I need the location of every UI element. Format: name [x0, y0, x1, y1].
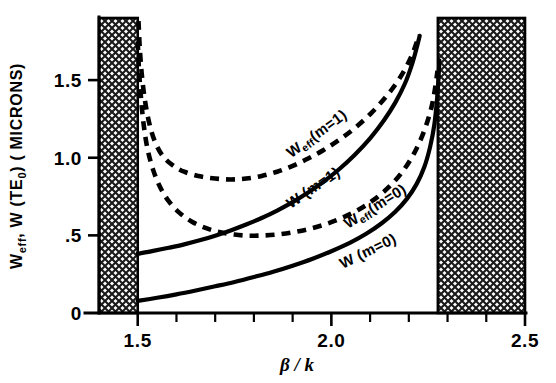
y-axis-title-zero: 0 [16, 172, 28, 179]
y-axis-title-w: W [8, 253, 25, 269]
y-tick-label: .5 [65, 225, 82, 246]
x-tick-label: 2.5 [511, 330, 539, 351]
y-tick-label: 0 [71, 303, 82, 324]
chart-canvas: 0.51.01.5 1.52.02.5 β / k Weff, W (TE0) … [0, 0, 556, 383]
y-axis-title-eff: eff [16, 238, 28, 254]
y-axis-title-mid: , W (TE [8, 179, 25, 238]
x-tick-label: 1.5 [124, 330, 152, 351]
x-tick-label: 2.0 [317, 330, 345, 351]
right-forbidden-band [438, 18, 525, 313]
y-axis-title-units: ) ( MICRONS) [8, 63, 25, 172]
figure-container: 0.51.01.5 1.52.02.5 β / k Weff, W (TE0) … [0, 0, 556, 383]
x-axis-title: β / k [279, 354, 315, 375]
y-tick-label: 1.0 [54, 148, 82, 169]
y-tick-label: 1.5 [54, 70, 82, 91]
left-forbidden-band [99, 18, 138, 313]
